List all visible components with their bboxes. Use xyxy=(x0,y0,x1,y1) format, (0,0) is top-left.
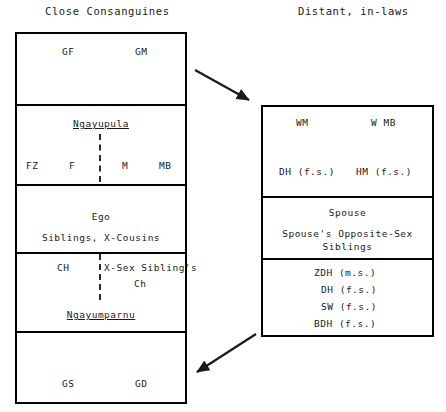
cell-ch: CH xyxy=(57,262,69,273)
cell-spouse-siblings: Siblings xyxy=(263,241,432,252)
cell-gf: GF xyxy=(62,46,74,57)
cell-spouse-opposite-sex: Spouse's Opposite-Sex xyxy=(263,228,432,239)
table-row-spouse: Spouse Spouse's Opposite-Sex Siblings xyxy=(263,198,432,260)
table-row-affines-lower: ZDH (m.s.) DH (f.s.) SW (f.s.) BDH (f.s.… xyxy=(263,260,432,335)
cell-mb: MB xyxy=(159,160,171,171)
distant-in-laws-table: WM W MB DH (f.s.) HM (f.s.) Spouse Spous… xyxy=(261,105,434,337)
cell-siblings-x-cousins: Siblings, X-Cousins xyxy=(17,232,185,243)
column-header-close-consanguines: Close Consanguines xyxy=(45,5,170,17)
cell-spouse: Spouse xyxy=(263,207,432,218)
kin-term-ngayupula: Ngayupula xyxy=(17,118,185,129)
table-row-grandchildren: GS GD xyxy=(17,333,185,402)
cell-m: M xyxy=(122,160,128,171)
kinship-diagram: Close Consanguines Distant, in-laws GF G… xyxy=(0,0,446,412)
table-row-parents: Ngayupula FZ F M MB xyxy=(17,106,185,186)
cell-dh-fs-lower: DH (f.s.) xyxy=(321,284,377,295)
cell-fz: FZ xyxy=(26,160,38,171)
cell-wm: WM xyxy=(296,117,308,128)
cell-gd: GD xyxy=(135,378,147,389)
moiety-divider-parents xyxy=(99,134,101,182)
table-row-ego: Ego Siblings, X-Cousins xyxy=(17,186,185,254)
cell-ego: Ego xyxy=(17,211,185,222)
cell-x-sex-siblings-ch-line1: X-Sex Sibling's xyxy=(104,262,197,273)
cell-sw-fs: SW (f.s.) xyxy=(321,301,377,312)
table-row-grandparents: GF GM xyxy=(17,34,185,106)
cell-zdh-ms: ZDH (m.s.) xyxy=(314,267,376,278)
cell-w-mb: W MB xyxy=(371,117,396,128)
table-row-affines-upper: WM W MB DH (f.s.) HM (f.s.) xyxy=(263,107,432,198)
cell-bdh-fs: BDH (f.s.) xyxy=(314,318,376,329)
moiety-divider-children xyxy=(99,254,101,300)
column-header-distant-in-laws: Distant, in-laws xyxy=(298,5,409,17)
cell-x-sex-siblings-ch-line2: Ch xyxy=(134,278,146,289)
cell-gs: GS xyxy=(62,378,74,389)
close-consanguines-table: GF GM Ngayupula FZ F M MB Ego Siblings, … xyxy=(15,32,187,404)
cell-dh-fs-upper: DH (f.s.) xyxy=(279,166,335,177)
table-row-children: CH X-Sex Sibling's Ch Ngayumparnu xyxy=(17,254,185,333)
arrow-bottom-right-to-left xyxy=(197,334,256,372)
arrow-top-left-to-right xyxy=(195,70,249,100)
kin-term-ngayumparnu: Ngayumparnu xyxy=(17,309,185,320)
cell-f: F xyxy=(69,160,75,171)
cell-hm-fs: HM (f.s.) xyxy=(356,166,412,177)
cell-gm: GM xyxy=(135,46,147,57)
